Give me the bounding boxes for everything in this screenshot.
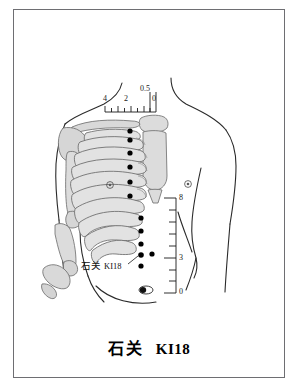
vruler-label-3: 3 <box>179 254 183 262</box>
acupoint-dot <box>127 150 132 155</box>
hruler-label-0point5: 0.5 <box>140 85 150 93</box>
acupoint-dot <box>138 241 143 246</box>
figure-caption: 石关KI18 <box>13 335 285 359</box>
acupoint-dot-lateral <box>149 251 154 256</box>
acupoint-callout-cn: 石关 <box>81 261 101 271</box>
callout-leader-line <box>128 256 138 264</box>
acupoint-dot <box>127 137 132 142</box>
hruler-label-4: 4 <box>103 95 107 103</box>
horizontal-cun-ruler <box>105 92 156 112</box>
landmark-nipple-right <box>185 181 192 188</box>
forearm-bones <box>42 224 78 299</box>
caption-cn: 石关 <box>108 340 144 357</box>
acupoint-dot <box>138 263 143 268</box>
acupoint-dot <box>127 128 132 133</box>
torso-illustration <box>0 0 299 391</box>
acupoint-dot <box>127 193 132 198</box>
ribcage <box>71 129 147 263</box>
anatomical-figure: 4 2 0.5 0 8 3 0 石关KI18 石关KI18 <box>0 0 299 391</box>
hruler-label-2: 2 <box>124 95 128 103</box>
hruler-label-0: 0 <box>152 95 156 103</box>
vruler-label-8: 8 <box>179 194 183 202</box>
acupoint-callout-code: KI18 <box>104 261 121 271</box>
acupoint-callout-label: 石关KI18 <box>81 258 121 272</box>
vertical-cun-ruler <box>164 198 176 293</box>
vruler-label-0: 0 <box>179 288 183 296</box>
acupoint-dot <box>127 164 132 169</box>
acupoint-dot <box>127 179 132 184</box>
landmark-umbilicus <box>139 286 153 294</box>
acupoint-dot <box>138 215 143 220</box>
figure-page: 4 2 0.5 0 8 3 0 石关KI18 石关KI18 <box>0 0 299 391</box>
caption-code: KI18 <box>156 341 191 357</box>
acupoint-dot-ki18 <box>138 252 144 258</box>
acupoint-dot <box>138 228 143 233</box>
